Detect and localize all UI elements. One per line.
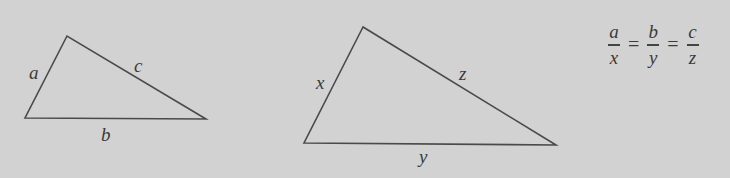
similar-triangles-diagram: a c b x z y a x = b y = c z	[0, 0, 730, 178]
side-label-y: y	[419, 147, 427, 166]
side-label-a: a	[29, 63, 39, 82]
fraction-bar	[608, 44, 620, 46]
denominator: y	[649, 48, 657, 68]
numerator: c	[688, 22, 696, 42]
side-label-x: x	[316, 73, 324, 92]
fraction-c-over-z: c z	[685, 22, 701, 68]
numerator: b	[649, 22, 659, 42]
side-label-z: z	[459, 64, 466, 83]
equals-sign: =	[667, 33, 678, 56]
equals-sign: =	[628, 33, 639, 56]
side-label-c: c	[134, 56, 142, 75]
denominator: x	[610, 48, 618, 68]
side-label-b: b	[101, 125, 111, 144]
small-triangle	[25, 36, 206, 119]
fraction-bar	[647, 44, 659, 46]
fraction-a-over-x: a x	[606, 22, 622, 68]
fraction-bar	[687, 44, 699, 46]
numerator: a	[609, 22, 619, 42]
denominator: z	[689, 48, 696, 68]
proportion-formula: a x = b y = c z	[606, 22, 701, 68]
large-triangle	[304, 27, 556, 145]
fraction-b-over-y: b y	[645, 22, 661, 68]
